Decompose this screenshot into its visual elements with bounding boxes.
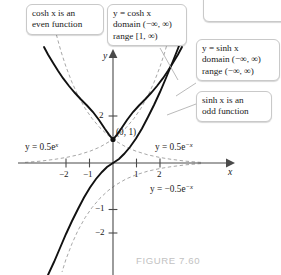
callout-line: domain (−∞, ∞) bbox=[202, 54, 274, 65]
y-tick-label--2: −2 bbox=[95, 227, 105, 237]
label-half-exp-neg-x-exponent: −x bbox=[185, 141, 192, 148]
callout-line: range (−∞, ∞) bbox=[202, 66, 274, 77]
y-tick-label--1: −1 bbox=[95, 203, 105, 213]
leader-sinh-definition bbox=[176, 83, 196, 96]
callout-cosh-inverse-partial: cosh⁻ bbox=[203, 0, 281, 22]
y-axis-arrowhead bbox=[109, 49, 118, 58]
callout-line: y = cosh x bbox=[113, 8, 181, 19]
leader-sinh-odd bbox=[167, 104, 196, 115]
callout-cosh-even-function: cosh x is an even function bbox=[26, 4, 104, 35]
callout-line: odd function bbox=[202, 106, 266, 117]
x-tick-label--1: −1 bbox=[83, 169, 93, 179]
callout-line: range [1, ∞) bbox=[113, 31, 181, 42]
label-half-exp-x-exponent: x bbox=[55, 141, 58, 148]
x-axis-label: x bbox=[228, 166, 232, 177]
label-neg-half-exp-neg-x: y = −0.5e−x bbox=[150, 182, 193, 194]
callout-line: domain (−∞, ∞) bbox=[113, 19, 181, 30]
callout-sinh-definition: y = sinh x domain (−∞, ∞) range (−∞, ∞) bbox=[196, 39, 280, 81]
y-tick-label-2: 2 bbox=[99, 110, 104, 120]
x-tick-label-2: 2 bbox=[157, 169, 162, 179]
label-neg-half-exp-neg-x-exponent: −x bbox=[186, 183, 193, 190]
figure-caption: FIGURE 7.60 bbox=[136, 255, 200, 266]
x-tick-label--2: −2 bbox=[59, 169, 69, 179]
label-half-exp-x: y = 0.5ex bbox=[25, 140, 58, 152]
callout-line: sinh x is an bbox=[202, 95, 266, 106]
callout-cosh-definition: y = cosh x domain (−∞, ∞) range [1, ∞) bbox=[107, 4, 187, 46]
curve-sinh bbox=[48, 38, 182, 275]
callout-sinh-odd-function: sinh x is an odd function bbox=[196, 91, 272, 122]
callout-cosh-inverse-text: cosh⁻ bbox=[215, 0, 238, 2]
label-half-exp-neg-x: y = 0.5e−x bbox=[155, 140, 193, 152]
figure-container: cosh x is an even function y = cosh x do… bbox=[0, 0, 281, 275]
x-tick-label-1: 1 bbox=[134, 169, 139, 179]
label-half-exp-x-text: y = 0.5e bbox=[25, 142, 55, 152]
label-half-exp-neg-x-text: y = 0.5e bbox=[155, 142, 185, 152]
callout-line: cosh x is an bbox=[32, 8, 98, 19]
label-neg-half-exp-neg-x-text: y = −0.5e bbox=[150, 184, 186, 194]
y-axis-label: y bbox=[103, 50, 107, 61]
point-label-0-1: (0, 1) bbox=[116, 127, 136, 137]
point-0-1-marker bbox=[110, 137, 115, 142]
callout-line: y = sinh x bbox=[202, 43, 274, 54]
callout-line: even function bbox=[32, 19, 98, 30]
